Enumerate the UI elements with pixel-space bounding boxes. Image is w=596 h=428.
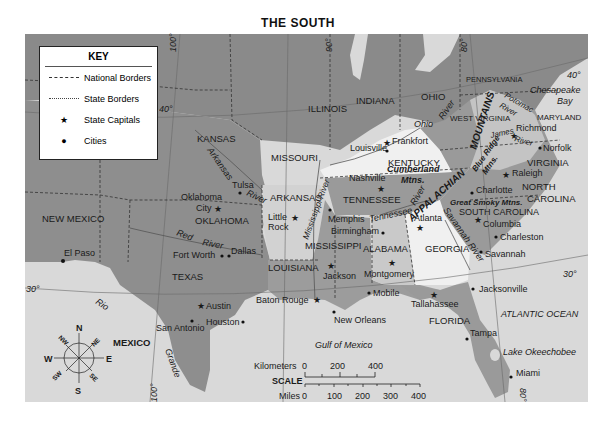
capital-star: ★ [377, 184, 385, 194]
state-georgia: GEORGIA [425, 243, 470, 254]
state-south-carolina: SOUTH CAROLINA [459, 207, 539, 217]
capital-star: ★ [388, 258, 396, 268]
city-san-antonio: San Antonio [156, 323, 205, 333]
key-label: Cities [84, 136, 107, 146]
state-florida: FLORIDA [429, 315, 471, 326]
capital-star: ★ [502, 170, 510, 180]
capital-austin: Austin [206, 301, 231, 311]
state-north-carolina-2: CAROLINA [527, 193, 576, 204]
state-oklahoma: OKLAHOMA [195, 215, 250, 226]
city-charlotte: Charlotte [476, 185, 513, 195]
capital-richmond: Richmond [516, 123, 557, 133]
state-kansas: KANSAS [197, 133, 236, 144]
city-el-paso: El Paso [64, 248, 95, 258]
city-norfolk: Norfolk [543, 143, 572, 153]
capital-star: ★ [313, 295, 321, 305]
scale-mi-200: 200 [355, 391, 370, 401]
capital-jackson: Jackson [323, 271, 356, 281]
city-charleston: Charleston [500, 232, 544, 242]
state-new-mexico: NEW MEXICO [42, 213, 104, 224]
city-new-orleans: New Orleans [334, 315, 387, 325]
national-border-line-icon [48, 77, 80, 78]
state-ohio: OHIO [421, 91, 445, 102]
capital-city: City [196, 203, 212, 213]
key-label: State Capitals [84, 115, 140, 125]
key-label: National Borders [84, 73, 151, 83]
scale-km-400: 400 [368, 361, 383, 371]
key-item-state-borders: State Borders [48, 88, 157, 109]
lon-100-south: 100° [149, 383, 159, 402]
capital-rock: Rock [268, 222, 289, 232]
scale-km-200: 200 [330, 361, 345, 371]
capital-montgomery: Montgomery [364, 269, 415, 279]
gulf-label: Gulf of Mexico [315, 340, 373, 350]
capital-nashville: Nashville [349, 173, 386, 183]
state-mississippi: MISSISSIPPI [305, 240, 362, 251]
capital-star: ★ [416, 223, 424, 233]
compass-s: S [75, 386, 81, 396]
dot-icon: ● [48, 136, 80, 146]
scale-mi-label: Miles [279, 391, 301, 401]
city-dallas: Dallas [231, 246, 257, 256]
capital-baton-rouge: Baton Rouge [256, 295, 309, 305]
city-savannah: Savannah [485, 249, 526, 259]
scale-mi-300: 300 [383, 391, 398, 401]
capital-tallahassee: Tallahassee [411, 299, 459, 309]
scale-km-0: 0 [302, 361, 307, 371]
compass-n: N [76, 323, 83, 333]
state-tennessee: TENNESSEE [343, 194, 401, 205]
key-item-national-borders: National Borders [48, 67, 157, 88]
lat-40-east: 40° [567, 70, 581, 80]
capital-raleigh: Raleigh [512, 168, 543, 178]
capital-star: ★ [197, 301, 205, 311]
scale-mi-400: 400 [411, 391, 426, 401]
capital-columbia: Columbia [483, 219, 521, 229]
city-birmingham: Birmingham [331, 226, 379, 236]
country-mexico: MEXICO [113, 337, 150, 348]
city-houston: Houston [206, 317, 240, 327]
lat-30-west: 30° [26, 284, 40, 294]
city-memphis: Memphis [328, 214, 365, 224]
map-key: KEY National Borders State Borders ★ Sta… [39, 46, 158, 160]
lake-okeechobee [490, 349, 500, 361]
lon-100-north: 100° [168, 33, 178, 52]
state-border-line-icon [48, 98, 80, 99]
lon-90-north: 90° [324, 38, 334, 52]
scale-mi-0: 0 [302, 391, 307, 401]
lon-80-north: 80° [459, 38, 469, 52]
state-maryland: MARYLAND [537, 113, 582, 122]
key-item-state-capitals: ★ State Capitals [48, 109, 157, 130]
city-tampa: Tampa [470, 328, 497, 338]
state-virginia: VIRGINIA [527, 157, 569, 168]
city-louisville: Louisville [350, 143, 387, 153]
okeechobee-label: Lake Okeechobee [503, 347, 576, 357]
cumberland-label: Cumberland [387, 164, 440, 174]
state-pennsylvania: PENNSYLVANIA [466, 75, 522, 84]
key-label: State Borders [84, 94, 139, 104]
capital-star: ★ [214, 204, 222, 214]
state-north-carolina-1: NORTH [522, 181, 556, 192]
city-jacksonville: Jacksonville [479, 284, 528, 294]
atlantic-label: ATLANTIC OCEAN [500, 309, 579, 319]
capital-oklahoma: Oklahoma [181, 192, 222, 202]
capital-star: ★ [474, 215, 482, 225]
capital-frankfort: Frankfort [392, 136, 429, 146]
lat-30-east: 30° [563, 269, 577, 279]
state-texas: TEXAS [172, 271, 203, 282]
great-smoky-label: Great Smoky Mtns. [450, 198, 522, 207]
capital-star: ★ [291, 213, 299, 223]
state-indiana: INDIANA [356, 95, 395, 106]
cumberland-mtns-label: Mtns. [401, 175, 425, 185]
bay-label: Bay [557, 96, 573, 106]
city-miami: Miami [516, 368, 540, 378]
key-item-cities: ● Cities [48, 130, 157, 151]
city-mobile: Mobile [373, 288, 400, 298]
capital-little: Little [268, 212, 287, 222]
state-alabama: ALABAMA [363, 243, 409, 254]
city-fort-worth: Fort Worth [173, 250, 215, 260]
lon-80-south: 80° [518, 388, 528, 402]
capital-star: ★ [327, 261, 335, 271]
compass-e: E [106, 354, 112, 364]
scale-km-label: Kilometers [254, 361, 297, 371]
river-ohio: Ohio [414, 119, 433, 129]
